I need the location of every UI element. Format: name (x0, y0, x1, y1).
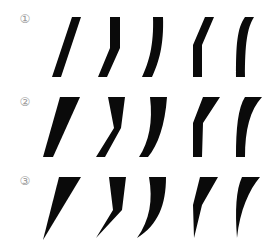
row-2-stroke-5 (236, 97, 262, 157)
row-1-stroke-1 (52, 17, 81, 77)
row-1-stroke-4 (193, 17, 214, 77)
row-3-stroke-4 (193, 177, 218, 238)
row-3-stroke-2 (96, 177, 126, 238)
row-2-stroke-3 (139, 97, 167, 157)
row-2-strokes (43, 97, 262, 157)
row-3-stroke-3 (137, 177, 166, 238)
row-3-stroke-1 (43, 177, 81, 240)
row-2-stroke-2 (96, 97, 125, 157)
row-1-strokes (52, 17, 254, 77)
row-1-stroke-2 (98, 17, 120, 77)
row-1-stroke-5 (236, 17, 254, 77)
row-3-stroke-5 (236, 177, 260, 238)
row-3-strokes (43, 177, 260, 240)
row-2-stroke-4 (193, 97, 220, 157)
stroke-diagram (0, 0, 280, 248)
row-1-stroke-3 (142, 17, 163, 77)
row-2-stroke-1 (43, 97, 80, 157)
